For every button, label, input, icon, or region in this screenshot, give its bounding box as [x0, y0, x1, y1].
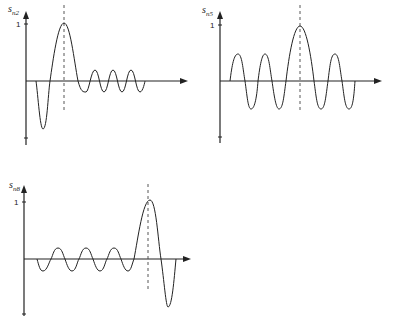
y-axis-label: sn5 [202, 4, 213, 18]
y-tick-1: 1 [14, 198, 19, 207]
y-tick-1: 1 [16, 20, 21, 29]
plot-s-n2: 1 sn2 [8, 3, 188, 145]
curve-s-n2 [36, 23, 145, 129]
y-axis-arrow-icon [23, 11, 29, 19]
y-axis-arrow-icon [217, 11, 223, 19]
x-axis-arrow-icon [183, 256, 191, 262]
plot-s-n8: 1 sn8 [9, 179, 191, 316]
plot-s-n5: 1 sn5 [202, 4, 382, 143]
sinc-pulse-figure: 1 sn2 1 sn5 1 sn8 [0, 0, 393, 326]
y-axis-arrow-icon [21, 185, 27, 193]
y-tick-1: 1 [210, 21, 215, 30]
curve-s-n8 [37, 200, 176, 307]
curve-s-n5 [230, 26, 355, 109]
x-axis-arrow-icon [180, 78, 188, 84]
y-axis-label: sn2 [8, 3, 19, 17]
y-axis-label: sn8 [9, 179, 20, 193]
x-axis-arrow-icon [374, 78, 382, 84]
